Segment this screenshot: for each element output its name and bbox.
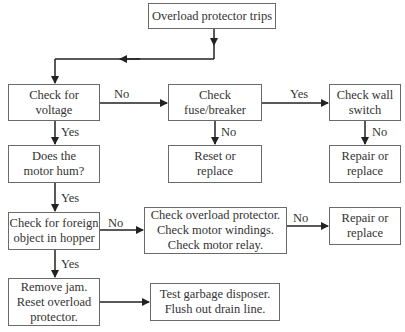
node-label: Repair or replace	[342, 211, 389, 241]
edge-label-voltage-no: No	[114, 87, 129, 101]
edge-label-wall-no: No	[372, 125, 387, 139]
node-motor-hum: Does the motor hum?	[8, 145, 100, 183]
edge-label-hum-yes: Yes	[61, 191, 79, 205]
node-label: Check for foreign object in hopper	[10, 216, 99, 246]
node-label: Check for voltage	[29, 88, 79, 118]
node-label: Remove jam. Reset overload protector.	[17, 280, 92, 325]
node-reset-or-replace: Reset or replace	[168, 145, 262, 183]
node-repair-or-replace-1: Repair or replace	[329, 145, 401, 183]
node-test-garbage-disposer: Test garbage disposer. Flush out drain l…	[150, 283, 280, 321]
node-check-overload-protector: Check overload protector. Check motor wi…	[144, 207, 287, 254]
edge-label-fuse-yes: Yes	[290, 87, 308, 101]
node-check-fuse-breaker: Check fuse/breaker	[168, 84, 262, 121]
node-repair-or-replace-2: Repair or replace	[329, 207, 401, 245]
edge-label-foreign-yes: Yes	[61, 257, 79, 271]
node-label: Test garbage disposer. Flush out drain l…	[160, 287, 271, 317]
edge-label-foreign-no: No	[108, 216, 123, 230]
node-label: Repair or replace	[342, 149, 389, 179]
node-remove-jam: Remove jam. Reset overload protector.	[8, 278, 100, 326]
node-check-foreign-object: Check for foreign object in hopper	[8, 212, 100, 250]
edge-label-voltage-yes: Yes	[61, 125, 79, 139]
node-label: Check overload protector. Check motor wi…	[151, 208, 280, 253]
node-check-wall-switch: Check wall switch	[329, 84, 401, 121]
node-overload-protector-trips: Overload protector trips	[148, 3, 276, 29]
node-label: Check wall switch	[337, 88, 394, 118]
edge-label-fuse-no: No	[221, 125, 236, 139]
node-check-voltage: Check for voltage	[8, 84, 100, 121]
node-label: Check fuse/breaker	[184, 88, 246, 118]
node-label: Reset or replace	[194, 149, 235, 179]
node-label: Overload protector trips	[152, 9, 272, 24]
edge-label-overload-no: No	[293, 211, 308, 225]
node-label: Does the motor hum?	[24, 149, 85, 179]
